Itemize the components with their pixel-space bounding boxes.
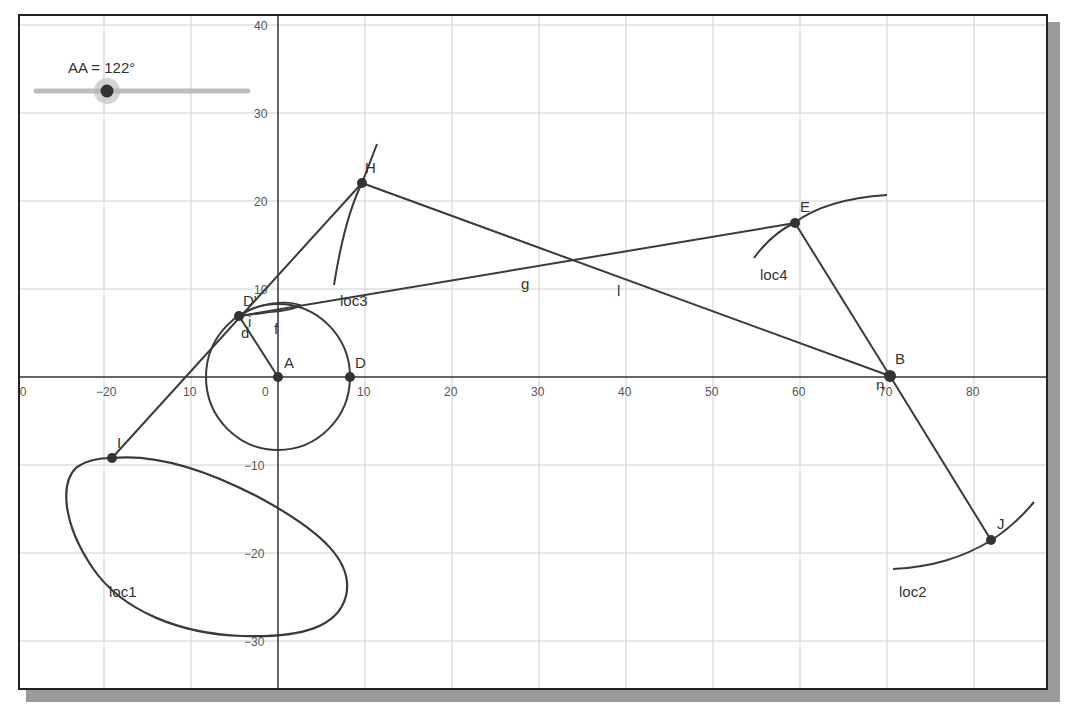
y-tick-label: −20 — [244, 547, 265, 561]
label-segment-g: g — [521, 275, 529, 292]
y-tick-label: 30 — [254, 107, 268, 121]
label-loc3: loc3 — [340, 292, 368, 309]
segment-e-b[interactable] — [795, 223, 890, 376]
label-loc1: loc1 — [109, 583, 137, 600]
locus-loc2[interactable] — [893, 502, 1034, 569]
grid — [20, 16, 1048, 690]
y-tick-label: 40 — [254, 19, 268, 33]
slider-knob[interactable] — [101, 85, 114, 98]
point-H[interactable] — [357, 178, 367, 188]
label-I: I — [117, 434, 121, 451]
x-tick-label: 80 — [966, 385, 980, 399]
geogebra-graphics-view[interactable]: -30−201001020304050607080 40302010−10−20… — [18, 14, 1048, 690]
label-B: B — [895, 350, 905, 367]
slider-AA[interactable]: AA = 122° — [36, 59, 248, 104]
x-tick-label: 30 — [531, 385, 545, 399]
locus-loc1[interactable] — [66, 457, 347, 636]
point-A[interactable] — [273, 372, 283, 382]
slider-label: AA = 122° — [68, 59, 135, 76]
label-loc2: loc2 — [899, 583, 927, 600]
label-segment-l: l — [617, 282, 620, 299]
x-tick-label: 10 — [357, 385, 371, 399]
label-segment-n: n — [876, 376, 884, 393]
x-tick-label: 50 — [705, 385, 719, 399]
point-D[interactable] — [345, 372, 355, 382]
point-D-prime[interactable] — [234, 311, 244, 321]
label-E: E — [800, 198, 810, 215]
segment-g[interactable] — [239, 223, 795, 316]
point-J[interactable] — [986, 535, 996, 545]
x-tick-label: 60 — [792, 385, 806, 399]
point-B[interactable] — [884, 370, 896, 382]
x-axis-tick-labels: -30−201001020304050607080 — [20, 385, 980, 399]
x-tick-label: 20 — [444, 385, 458, 399]
axes — [20, 16, 1048, 690]
segment-n[interactable] — [890, 376, 991, 540]
graphics-canvas[interactable]: -30−201001020304050607080 40302010−10−20… — [20, 16, 1048, 690]
label-J: J — [997, 515, 1005, 532]
label-loc4: loc4 — [760, 266, 788, 283]
x-tick-label: 40 — [618, 385, 632, 399]
label-segment-i: i — [248, 313, 251, 330]
point-E[interactable] — [790, 218, 800, 228]
y-tick-label: −10 — [244, 459, 265, 473]
x-tick-label: −20 — [96, 385, 117, 399]
x-tick-label: -30 — [20, 385, 27, 399]
label-D-prime: D' — [243, 292, 257, 309]
x-tick-label: 10 — [183, 385, 197, 399]
label-A: A — [284, 354, 294, 371]
y-tick-label: 20 — [254, 195, 268, 209]
label-H: H — [365, 159, 376, 176]
x-tick-label: 0 — [262, 385, 269, 399]
label-D: D — [355, 354, 366, 371]
point-I[interactable] — [107, 453, 117, 463]
